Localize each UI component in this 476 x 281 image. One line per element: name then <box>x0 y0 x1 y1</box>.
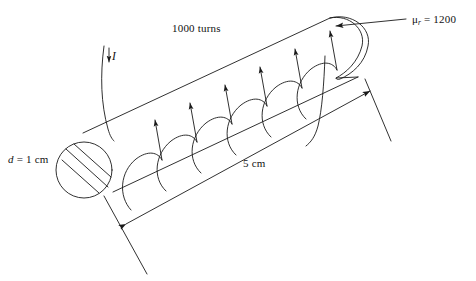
core-bottom-edge <box>113 77 358 192</box>
hatch-line-2 <box>74 144 111 177</box>
diameter-symbol: d <box>8 153 14 165</box>
winding-5-back <box>262 81 302 137</box>
lead-wires <box>102 46 325 146</box>
permeability-label: μr = 1200 <box>412 13 456 27</box>
winding-4-back <box>227 99 267 155</box>
core-right-dome-inner <box>330 17 363 78</box>
current-symbol: I <box>112 50 116 62</box>
length-label: 5 cm <box>243 157 266 169</box>
coil-windings <box>122 31 337 210</box>
diameter-equals: = <box>17 153 23 165</box>
solenoid-figure: μr = 1200 1000 turns I d = 1 cm 5 cm <box>0 0 476 281</box>
dimension-extension-right <box>365 79 391 141</box>
winding-turn-4 <box>227 67 267 155</box>
figure-canvas <box>0 0 476 281</box>
hatch-line-1 <box>66 149 108 187</box>
dimension-extension-left <box>104 196 147 274</box>
permeability-subscript: r <box>418 18 421 27</box>
core-cross-section <box>56 142 112 198</box>
winding-1-back <box>122 153 162 210</box>
core-cylinder <box>83 17 369 192</box>
winding-turn-3 <box>192 85 232 173</box>
turns-label: 1000 turns <box>172 22 221 34</box>
permeability-leader-line <box>336 19 406 26</box>
winding-turn-1 <box>122 120 162 210</box>
winding-turn-6 <box>297 31 337 119</box>
winding-turn-2 <box>157 103 197 191</box>
lead-wire-right <box>306 56 325 146</box>
permeability-leader <box>336 19 406 26</box>
winding-turn-5 <box>262 49 302 137</box>
diameter-label: d = 1 cm <box>8 153 49 165</box>
diameter-value: 1 cm <box>26 153 49 165</box>
winding-2-back <box>157 135 197 191</box>
hatch-line-3 <box>62 160 99 193</box>
winding-6-back <box>297 63 337 119</box>
core-top-edge <box>83 18 330 133</box>
current-label: I <box>112 50 116 63</box>
permeability-equals: = <box>424 13 430 25</box>
permeability-value: 1200 <box>433 13 456 25</box>
